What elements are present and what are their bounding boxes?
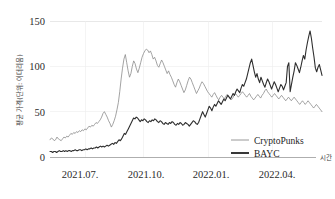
y-tick-0: 0 [40,152,45,163]
y-tick-100: 100 [29,61,45,72]
y-axis-tick-labels: 150 100 50 0 [29,16,45,163]
line-chart: 150 100 50 0 2021.07. 2021.10. 2022.01. … [0,0,335,199]
y-axis-title: 평균 가격(단위: 이더리움) [15,54,24,125]
legend-label-cryptopunks: CryptoPunks [254,136,304,146]
x-tick-2022-04: 2022.04. [259,169,296,180]
x-tick-2021-07: 2021.07. [62,169,99,180]
y-tick-150: 150 [29,16,45,27]
y-tick-50: 50 [35,107,46,118]
x-axis-tick-labels: 2021.07. 2021.10. 2022.01. 2022.04. [62,169,296,180]
x-tick-2022-01: 2022.01. [193,169,230,180]
chart-figure: 150 100 50 0 2021.07. 2021.10. 2022.01. … [0,0,335,199]
x-tick-2021-10: 2021.10. [128,169,165,180]
x-axis-title: 시간 [320,153,332,162]
legend-label-bayc: BAYC [254,149,280,159]
